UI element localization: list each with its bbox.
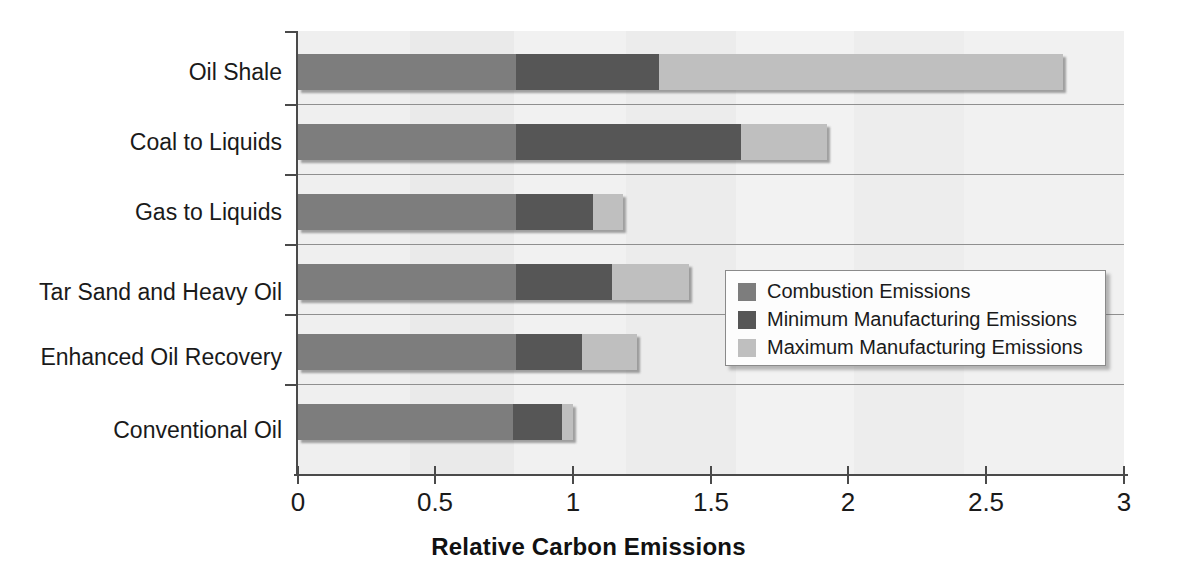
bar-segment-combustion: [298, 124, 516, 160]
x-axis-title: Relative Carbon Emissions: [0, 533, 1177, 561]
bar-segment-maximum: [741, 124, 826, 160]
legend-swatch-maximum: [738, 339, 756, 357]
bar-segment-maximum: [593, 194, 623, 230]
category-separator: [298, 244, 1124, 245]
legend-label: Maximum Manufacturing Emissions: [767, 336, 1083, 359]
bar-segment-minimum: [516, 194, 593, 230]
bar-segment-minimum: [516, 334, 582, 370]
legend-swatch-minimum: [738, 311, 756, 329]
x-axis-tick-label: 0.5: [417, 487, 453, 518]
bar-segment-maximum: [612, 264, 689, 300]
legend: Combustion Emissions Minimum Manufacturi…: [725, 270, 1106, 366]
bar-enhanced-oil-recovery[interactable]: [298, 334, 637, 370]
y-axis-tick: [285, 384, 298, 386]
x-axis-tick: [847, 466, 849, 484]
y-axis-category-label: Enhanced Oil Recovery: [40, 344, 282, 371]
x-axis-tick-label: 1.5: [693, 487, 729, 518]
category-separator: [298, 174, 1124, 175]
legend-item: Maximum Manufacturing Emissions: [738, 334, 1105, 361]
bar-segment-combustion: [298, 264, 516, 300]
x-axis-tick-label: 2: [841, 487, 855, 518]
x-axis-tick-label: 3: [1117, 487, 1131, 518]
bar-gas-to-liquids[interactable]: [298, 194, 623, 230]
x-axis-tick-label: 2.5: [968, 487, 1004, 518]
background-band: [854, 31, 964, 474]
bar-tar-sand-and-heavy-oil[interactable]: [298, 264, 689, 300]
x-axis-tick-label: 0: [291, 487, 305, 518]
bar-segment-minimum: [513, 404, 563, 440]
background-band: [626, 31, 736, 474]
category-separator: [298, 384, 1124, 385]
bar-segment-combustion: [298, 404, 513, 440]
x-axis-tick: [572, 466, 574, 484]
legend-item: Combustion Emissions: [738, 278, 1105, 305]
bar-oil-shale[interactable]: [298, 54, 1063, 90]
y-axis-tick: [285, 244, 298, 246]
y-axis-tick: [285, 104, 298, 106]
y-axis-category-label: Gas to Liquids: [135, 199, 282, 226]
x-axis-tick-label: 1: [566, 487, 580, 518]
y-axis-category-label: Conventional Oil: [113, 417, 282, 444]
bar-coal-to-liquids[interactable]: [298, 124, 827, 160]
background-band: [736, 31, 854, 474]
legend-label: Combustion Emissions: [767, 280, 970, 303]
bar-conventional-oil[interactable]: [298, 404, 573, 440]
bar-segment-minimum: [516, 124, 742, 160]
y-axis-category-label: Coal to Liquids: [130, 129, 282, 156]
legend-label: Minimum Manufacturing Emissions: [767, 308, 1077, 331]
category-separator: [298, 104, 1124, 105]
x-axis-tick: [1123, 466, 1125, 484]
bar-segment-minimum: [516, 264, 612, 300]
x-axis-tick: [297, 466, 299, 484]
x-axis-tick: [434, 466, 436, 484]
y-axis-category-label: Tar Sand and Heavy Oil: [39, 279, 282, 306]
bar-segment-combustion: [298, 194, 516, 230]
x-axis-tick: [985, 466, 987, 484]
y-axis-tick: [285, 174, 298, 176]
background-band: [964, 31, 1124, 474]
bar-segment-combustion: [298, 54, 516, 90]
bar-segment-maximum: [562, 404, 573, 440]
y-axis-category-label: Oil Shale: [189, 59, 282, 86]
legend-item: Minimum Manufacturing Emissions: [738, 306, 1105, 333]
chart-figure: 0 0.5 1 1.5 2 2.5 3 Relative Carbon Emis…: [0, 0, 1177, 582]
y-axis-tick: [285, 314, 298, 316]
x-axis-tick: [710, 466, 712, 484]
bar-segment-minimum: [516, 54, 659, 90]
bar-segment-maximum: [659, 54, 1064, 90]
bar-segment-combustion: [298, 334, 516, 370]
bar-segment-maximum: [582, 334, 637, 370]
legend-swatch-combustion: [738, 283, 756, 301]
y-axis-tick: [285, 31, 298, 33]
